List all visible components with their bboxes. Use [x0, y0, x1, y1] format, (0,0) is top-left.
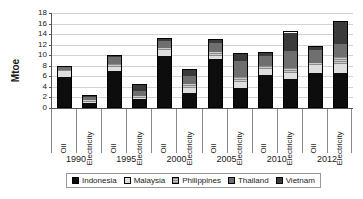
- bar-segment-thailand: [183, 76, 196, 85]
- y-axis-tick-label: 12: [38, 41, 47, 49]
- bar-segment-indonesia: [133, 99, 146, 107]
- x-axis-subcategory-label: Electricity: [333, 109, 345, 153]
- x-axis-group-label: 2005: [203, 153, 251, 165]
- x-axis-separator: [151, 109, 152, 153]
- legend-swatch-vietnam: [276, 177, 283, 184]
- bar-stack: [308, 46, 323, 108]
- legend-label: Indonesia: [82, 176, 117, 185]
- bar-segment-indonesia: [334, 73, 347, 107]
- legend-label: Philippines: [182, 176, 221, 185]
- x-axis-group-label: 1995: [102, 153, 150, 165]
- bar-segment-indonesia: [108, 71, 121, 107]
- bar-stack: [57, 66, 72, 108]
- x-axis-group-label: 2000: [152, 153, 200, 165]
- x-axis-separator: [277, 109, 278, 153]
- y-axis-tick-label: 0: [43, 104, 47, 112]
- bar-segment-indonesia: [259, 75, 272, 107]
- x-axis-subcategory-label: Electricity: [133, 109, 145, 153]
- bar-segment-indonesia: [309, 73, 322, 107]
- x-axis-separator: [327, 109, 328, 153]
- y-axis-tick-label: 16: [38, 20, 47, 28]
- bar-segment-indonesia: [284, 79, 297, 107]
- bar-segment-thailand: [284, 51, 297, 68]
- legend-item: Thailand: [228, 176, 269, 185]
- bars-layer: [52, 13, 353, 108]
- x-axis-separator: [202, 109, 203, 153]
- x-axis-group-label: 2012: [303, 153, 351, 165]
- bar-segment-thailand: [334, 44, 347, 57]
- x-axis-separator: [351, 109, 352, 153]
- y-axis-title: Mtoe: [9, 40, 23, 100]
- x-axis-subcategory-label-text: Oil: [210, 144, 219, 154]
- legend-item: Malaysia: [124, 176, 166, 185]
- bar-stack: [107, 55, 122, 108]
- y-axis-title-text: Mtoe: [11, 58, 22, 81]
- x-axis-separator: [126, 109, 127, 153]
- bar-segment-indonesia: [58, 77, 71, 107]
- chart-container: Mtoe 024681012141618 OilElectricityOilEl…: [0, 0, 363, 199]
- x-axis-group-label: 2010: [253, 153, 301, 165]
- legend-label: Vietnam: [286, 176, 315, 185]
- bar-segment-thailand: [234, 61, 247, 76]
- x-axis-separator: [302, 109, 303, 153]
- x-axis-subcategory-label: Oil: [158, 109, 170, 153]
- bar-segment-vietnam: [334, 22, 347, 44]
- legend-label: Malaysia: [134, 176, 166, 185]
- x-axis-subcategory-label: Oil: [108, 109, 120, 153]
- bar-stack: [157, 38, 172, 108]
- bar-segment-indonesia: [83, 103, 96, 107]
- x-axis-subcategory-label: Oil: [258, 109, 270, 153]
- x-axis-separator: [101, 109, 102, 153]
- y-axis-tick-label: 6: [43, 72, 47, 80]
- y-axis-tick-labels: 024681012141618: [25, 13, 49, 108]
- bar-segment-thailand: [158, 41, 171, 48]
- bar-segment-thailand: [259, 56, 272, 67]
- y-axis-tick-label: 2: [43, 93, 47, 101]
- bar-segment-indonesia: [183, 93, 196, 107]
- x-axis-subcategory-label-text: Oil: [310, 144, 319, 154]
- bar-segment-indonesia: [158, 56, 171, 107]
- legend-item: Philippines: [172, 176, 221, 185]
- x-axis-subcategory-labels: OilElectricityOilElectricityOilElectrici…: [51, 109, 352, 153]
- x-axis-group-labels: 199019952000200520102012: [51, 153, 352, 167]
- x-axis-subcategory-label: Electricity: [283, 109, 295, 153]
- bar-stack: [132, 84, 147, 108]
- bar-stack: [182, 69, 197, 108]
- bar-stack: [82, 95, 97, 108]
- y-axis-tick-label: 10: [38, 51, 47, 59]
- legend-swatch-philippines: [172, 177, 179, 184]
- x-axis-subcategory-label: Oil: [308, 109, 320, 153]
- y-axis-tick-label: 4: [43, 83, 47, 91]
- x-axis-subcategory-label: Oil: [58, 109, 70, 153]
- bar-stack: [208, 39, 223, 108]
- x-axis-subcategory-label-text: Oil: [260, 144, 269, 154]
- bar-segment-thailand: [108, 57, 121, 64]
- bar-stack: [258, 52, 273, 108]
- x-axis-subcategory-label: Electricity: [183, 109, 195, 153]
- legend-swatch-thailand: [228, 177, 235, 184]
- bar-segment-malaysia: [334, 64, 347, 73]
- x-axis-subcategory-label-text: Oil: [109, 144, 118, 154]
- bar-segment-indonesia: [234, 88, 247, 107]
- bar-segment-thailand: [209, 43, 222, 52]
- x-axis-separator: [252, 109, 253, 153]
- plot-area: [51, 13, 353, 109]
- x-axis-separator: [76, 109, 77, 153]
- bar-segment-indonesia: [209, 59, 222, 107]
- legend-swatch-indonesia: [72, 177, 79, 184]
- x-axis-separator: [227, 109, 228, 153]
- bar-segment-vietnam: [234, 54, 247, 61]
- x-axis-subcategory-label-text: Oil: [159, 144, 168, 154]
- y-axis-tick-label: 14: [38, 30, 47, 38]
- legend-item: Indonesia: [72, 176, 117, 185]
- y-axis-tick-label: 18: [38, 9, 47, 17]
- chart-legend: IndonesiaMalaysiaPhilippinesThailandViet…: [66, 173, 321, 188]
- bar-stack: [333, 21, 348, 108]
- bar-stack: [283, 31, 298, 108]
- x-axis-group-label: 1990: [52, 153, 100, 165]
- x-axis-separator: [176, 109, 177, 153]
- legend-label: Thailand: [238, 176, 269, 185]
- x-axis-subcategory-label: Electricity: [233, 109, 245, 153]
- bar-segment-thailand: [309, 50, 322, 63]
- bar-segment-philippines: [334, 57, 347, 64]
